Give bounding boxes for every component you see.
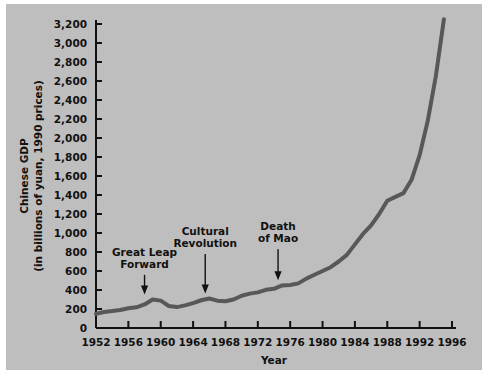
x-tick-label: 1988 — [373, 336, 402, 348]
annotation-arrow-head — [274, 271, 281, 280]
x-tick-label: 1992 — [405, 336, 434, 348]
gdp-line-chart: 02004006008001,0001,2001,4001,6001,8002,… — [6, 4, 482, 370]
y-tick-label: 1,800 — [54, 151, 87, 163]
y-tick-label: 2,600 — [54, 75, 87, 87]
x-axis-title: Year — [260, 354, 288, 366]
annotation-label-line1: Great Leap — [112, 246, 178, 258]
x-tick-label: 1984 — [340, 336, 369, 348]
y-tick-label: 600 — [65, 265, 87, 277]
y-tick-label: 2,000 — [54, 132, 87, 144]
y-tick-label: 3,200 — [54, 18, 87, 30]
annotation-arrow-head — [141, 285, 148, 294]
y-tick-label: 800 — [65, 246, 87, 258]
annotation-label-line1: Death — [260, 220, 295, 232]
x-tick-label: 1960 — [146, 336, 175, 348]
y-tick-label: 2,400 — [54, 94, 87, 106]
y-tick-label: 200 — [65, 303, 87, 315]
x-tick-label: 1952 — [81, 336, 110, 348]
y-tick-label: 3,000 — [54, 37, 87, 49]
y-tick-label: 0 — [80, 322, 87, 334]
x-tick-label: 1980 — [308, 336, 337, 348]
y-tick-label: 1,000 — [54, 227, 87, 239]
x-tick-label: 1976 — [276, 336, 305, 348]
x-tick-label: 1996 — [437, 336, 466, 348]
annotation-label-line1: Cultural — [182, 225, 229, 237]
annotation-arrow-head — [202, 285, 209, 294]
x-tick-label: 1968 — [211, 336, 240, 348]
y-axis-title-line2: (in billions of yuan, 1990 prices) — [32, 80, 44, 272]
y-tick-label: 400 — [65, 284, 87, 296]
y-axis-title-line1: Chinese GDP — [18, 138, 30, 214]
x-tick-label: 1972 — [243, 336, 272, 348]
y-tick-label: 1,400 — [54, 189, 87, 201]
x-tick-label: 1964 — [178, 336, 207, 348]
y-tick-label: 1,600 — [54, 170, 87, 182]
x-tick-label: 1956 — [114, 336, 143, 348]
chart-figure: 02004006008001,0001,2001,4001,6001,8002,… — [6, 4, 482, 370]
y-tick-label: 2,200 — [54, 113, 87, 125]
y-tick-label: 2,800 — [54, 56, 87, 68]
annotation-label-line2: Forward — [120, 258, 169, 270]
annotation-label-line2: of Mao — [258, 232, 298, 244]
annotation-label-line2: Revolution — [173, 237, 237, 249]
y-tick-label: 1,200 — [54, 208, 87, 220]
